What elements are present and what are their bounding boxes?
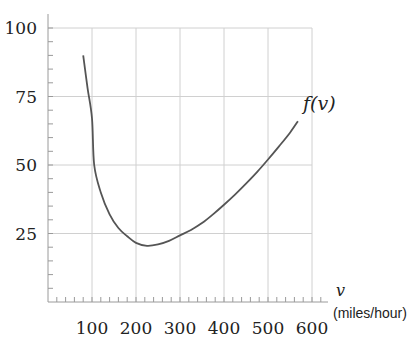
x-axis-variable: v [336, 281, 345, 300]
y-tick-label: 50 [15, 155, 37, 175]
f-curve [83, 55, 298, 245]
x-tick-label: 600 [296, 318, 328, 338]
x-tick-label: 500 [252, 318, 284, 338]
x-tick-label: 100 [76, 318, 108, 338]
y-tick-label: 100 [5, 18, 37, 38]
series-label: f(v) [301, 92, 336, 114]
chart: 100755025 100200300400500600 f(v) v (mil… [0, 0, 418, 341]
x-tick-labels: 100200300400500600 [76, 318, 328, 338]
grid-lines [48, 28, 312, 302]
y-tick-label: 25 [15, 224, 37, 244]
axes [48, 14, 328, 302]
x-axis-units: (miles/hour) [333, 305, 407, 321]
y-tick-labels: 100755025 [5, 18, 37, 244]
x-tick-label: 200 [120, 318, 152, 338]
x-tick-label: 400 [208, 318, 240, 338]
y-tick-label: 75 [15, 87, 37, 107]
x-tick-label: 300 [164, 318, 196, 338]
